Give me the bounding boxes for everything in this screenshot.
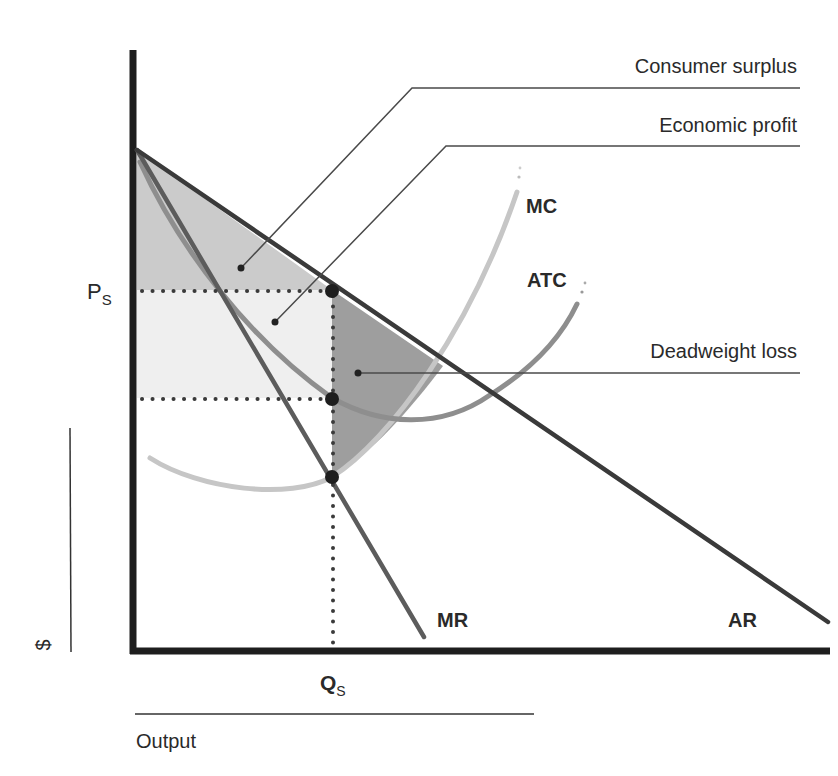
monopoly-diagram: Consumer surplus Economic profit Deadwei… xyxy=(0,0,838,776)
ar-label: AR xyxy=(728,609,757,631)
economic-profit-label: Economic profit xyxy=(659,114,797,136)
mc-end-dot xyxy=(519,167,522,170)
y-axis-title: $ xyxy=(32,639,54,650)
y-axis-title-rule xyxy=(70,428,71,652)
ps-label: PS xyxy=(87,279,112,308)
price-point xyxy=(325,284,339,298)
atc-end-dot xyxy=(580,290,583,293)
mc-label: MC xyxy=(526,195,557,217)
deadweight-loss-label: Deadweight loss xyxy=(650,340,797,362)
deadweight-loss-region xyxy=(332,290,443,477)
qs-label: QS xyxy=(320,671,346,699)
x-axis-title: Output xyxy=(136,730,196,752)
mc-end-dot xyxy=(517,175,520,178)
deadweight-loss-marker xyxy=(355,370,362,377)
mc-mr-point xyxy=(325,470,339,484)
atc-end-dot xyxy=(584,282,587,285)
atc-point xyxy=(325,392,339,406)
consumer-surplus-marker xyxy=(238,265,245,272)
mr-label: MR xyxy=(437,609,469,631)
atc-label: ATC xyxy=(527,269,567,291)
economic-profit-marker xyxy=(272,319,279,326)
consumer-surplus-label: Consumer surplus xyxy=(635,55,797,77)
